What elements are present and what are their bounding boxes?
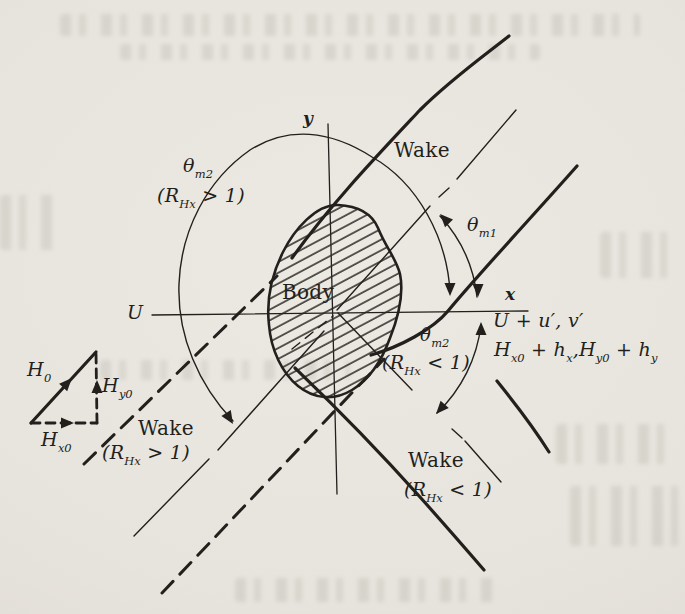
- wake-label-lower-right: Wake: [408, 450, 464, 471]
- condition-right-label: (RHx < 1): [382, 353, 470, 376]
- arrowhead-arc-big-start: [445, 283, 456, 296]
- x-axis-label: x: [505, 286, 515, 304]
- freestream-velocity-label: U: [127, 303, 143, 323]
- arrowhead-hx0-vector: [61, 418, 74, 429]
- perturbed-field-label: Hx0 + hx,Hy0 + hy: [494, 340, 658, 363]
- arrowhead-theta-m1-at-line: [436, 210, 453, 227]
- theta-m2-upper-label: θm2: [183, 156, 213, 179]
- wake-label-top: Wake: [394, 140, 450, 161]
- condition-lower-right-label: (RHx < 1): [404, 480, 492, 503]
- y-axis-label: y: [303, 110, 313, 128]
- theta-m1-label: θm1: [467, 215, 497, 238]
- hy0-label: Hy0: [102, 376, 133, 399]
- wake-label-lower-left: Wake: [138, 418, 194, 439]
- condition-lower-left-label: (RHx > 1): [102, 443, 190, 466]
- arrowhead-theta-m1-at-axis: [473, 284, 484, 297]
- perturbed-velocity-label: U + u′, v′: [493, 311, 584, 331]
- body-label: Body: [282, 282, 334, 303]
- diagram-canvas: [0, 0, 685, 614]
- arrowhead-theta-m2-at-axis: [476, 322, 487, 335]
- arrowhead-hy0-vector: [92, 380, 103, 393]
- arrowhead-arc-big-end: [221, 410, 237, 427]
- theta-m2-right-label: θm2: [420, 326, 449, 348]
- wake-boundary-rhx-gt-1-lower-dashed: [162, 359, 384, 593]
- condition-upper-label: (RHx > 1): [157, 186, 245, 209]
- hx0-label: Hx0: [41, 430, 72, 453]
- h0-label: H0: [27, 360, 51, 383]
- scanned-figure-page: y x U Body Wake θm2 (RHx > 1) θm1 U + u′…: [0, 0, 685, 614]
- wake-boundary-rhx-lt-1-upper: [497, 381, 549, 452]
